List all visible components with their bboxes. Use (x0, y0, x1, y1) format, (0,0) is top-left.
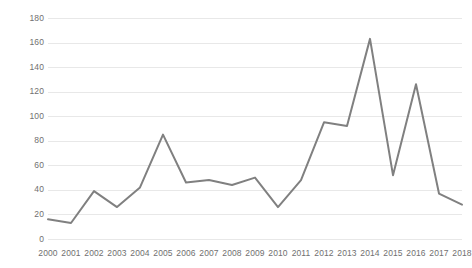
y-tick-label: 60 (4, 161, 44, 170)
x-tick-label: 2018 (452, 248, 471, 258)
x-tick-label: 2015 (383, 248, 402, 258)
x-tick-label: 2000 (38, 248, 57, 258)
x-tick-label: 2001 (61, 248, 80, 258)
x-tick-label: 2016 (406, 248, 425, 258)
x-tick-label: 2007 (199, 248, 218, 258)
gridline (48, 239, 462, 240)
series-line (48, 39, 462, 223)
y-tick-label: 180 (4, 14, 44, 23)
x-tick-label: 2011 (292, 248, 311, 258)
x-tick-label: 2006 (176, 248, 195, 258)
y-tick-label: 120 (4, 87, 44, 96)
plot-area (48, 18, 462, 239)
x-tick-label: 2005 (153, 248, 172, 258)
y-tick-label: 160 (4, 38, 44, 47)
x-tick-label: 2014 (360, 248, 379, 258)
x-tick-label: 2010 (268, 248, 287, 258)
y-tick-label: 40 (4, 185, 44, 194)
x-tick-label: 2009 (245, 248, 264, 258)
x-tick-label: 2013 (337, 248, 356, 258)
y-tick-label: 140 (4, 63, 44, 72)
y-axis: 020406080100120140160180 (0, 0, 44, 268)
x-tick-label: 2008 (222, 248, 241, 258)
y-tick-label: 100 (4, 112, 44, 121)
x-tick-label: 2003 (107, 248, 126, 258)
x-tick-label: 2004 (130, 248, 149, 258)
y-tick-label: 20 (4, 210, 44, 219)
y-tick-label: 80 (4, 136, 44, 145)
x-tick-label: 2012 (314, 248, 333, 258)
x-tick-label: 2002 (84, 248, 103, 258)
x-tick-label: 2017 (429, 248, 448, 258)
y-tick-label: 0 (4, 235, 44, 244)
series-line-group (48, 18, 462, 239)
x-axis: 2000200120022003200420052006200720082009… (48, 248, 462, 262)
